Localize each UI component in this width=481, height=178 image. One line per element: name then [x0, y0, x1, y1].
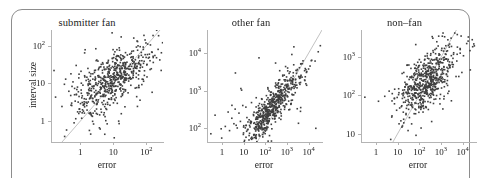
x-tick — [244, 142, 245, 145]
scatter-canvas-1 — [51, 30, 163, 142]
y-axis-spine — [207, 30, 208, 143]
x-tick-label: 103 — [435, 147, 447, 157]
x-tick-label: 104 — [302, 147, 314, 157]
x-tick — [222, 142, 223, 145]
panel-other-fan: other fan error 110102103104102103104 — [174, 0, 328, 178]
x-tick — [146, 142, 147, 145]
x-tick-label: 103 — [281, 147, 293, 157]
plot-area-3 — [361, 30, 476, 142]
y-tick-label: 10 — [15, 78, 45, 88]
panel-title: submitter fan — [0, 17, 174, 28]
plot-area-2 — [207, 30, 322, 142]
panel-title: non–fan — [328, 17, 481, 28]
x-tick-label: 104 — [456, 147, 468, 157]
x-tick — [441, 142, 442, 145]
y-tick-label: 10 — [325, 129, 355, 139]
y-tick-label: 102 — [15, 41, 45, 51]
y-tick-label: 103 — [171, 86, 201, 96]
x-tick-label: 1 — [78, 147, 83, 157]
plot-area-1 — [51, 30, 163, 142]
y-axis-spine — [51, 30, 52, 143]
x-tick — [376, 142, 377, 145]
y-tick-label: 1 — [15, 116, 45, 126]
y-tick — [48, 46, 51, 47]
x-tick — [287, 142, 288, 145]
y-tick-label: 103 — [325, 52, 355, 62]
x-tick — [265, 142, 266, 145]
x-tick — [398, 142, 399, 145]
panel-submitter-fan: submitter fan interval size error 110102… — [0, 0, 174, 178]
y-tick — [48, 121, 51, 122]
x-axis-title: error — [255, 160, 273, 170]
y-tick-label: 102 — [171, 123, 201, 133]
x-axis-title: error — [98, 160, 116, 170]
scatter-canvas-3 — [361, 30, 476, 142]
x-tick-label: 102 — [413, 147, 425, 157]
y-tick-label: 102 — [325, 90, 355, 100]
y-tick — [204, 128, 207, 129]
scatter-canvas-2 — [207, 30, 322, 142]
x-tick-label: 1 — [220, 147, 225, 157]
x-tick — [309, 142, 310, 145]
x-tick — [113, 142, 114, 145]
panel-non-fan: non–fan error 11010210310410102103 — [328, 0, 481, 178]
x-tick-label: 10 — [239, 147, 248, 157]
x-tick — [463, 142, 464, 145]
y-axis-spine — [361, 30, 362, 143]
x-tick — [80, 142, 81, 145]
figure-root: submitter fan interval size error 110102… — [0, 0, 481, 178]
x-axis-title: error — [409, 160, 427, 170]
x-tick-label: 102 — [140, 147, 152, 157]
y-tick — [358, 95, 361, 96]
y-tick-label: 104 — [171, 48, 201, 58]
y-tick — [358, 57, 361, 58]
x-tick-label: 10 — [109, 147, 118, 157]
panel-title: other fan — [174, 17, 328, 28]
y-tick — [204, 53, 207, 54]
y-tick — [204, 91, 207, 92]
x-tick-label: 10 — [393, 147, 402, 157]
y-tick — [48, 83, 51, 84]
x-tick — [419, 142, 420, 145]
y-tick — [358, 134, 361, 135]
x-tick-label: 1 — [374, 147, 379, 157]
x-tick-label: 102 — [259, 147, 271, 157]
